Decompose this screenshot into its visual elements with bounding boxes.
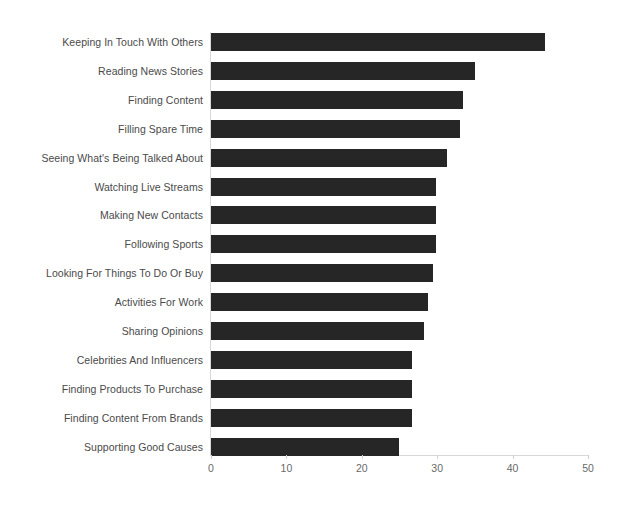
bar: [211, 409, 412, 427]
x-tick-mark: [513, 455, 514, 459]
x-tick-label: 30: [417, 462, 457, 474]
bar-row: Activities For Work: [0, 292, 642, 312]
x-tick-label: 50: [568, 462, 608, 474]
bar: [211, 264, 433, 282]
bar-row: Finding Content From Brands: [0, 408, 642, 428]
bar-row: Celebrities And Influencers: [0, 350, 642, 370]
bar: [211, 149, 447, 167]
bar-row: Sharing Opinions: [0, 321, 642, 341]
bar: [211, 178, 436, 196]
bar: [211, 322, 424, 340]
bar-row: Looking For Things To Do Or Buy: [0, 263, 642, 283]
bar-row: Keeping In Touch With Others: [0, 32, 642, 52]
bar: [211, 235, 436, 253]
bar-row: Following Sports: [0, 234, 642, 254]
bar-row: Reading News Stories: [0, 61, 642, 81]
bar-row: Supporting Good Causes: [0, 437, 642, 457]
bar-row: Seeing What's Being Talked About: [0, 148, 642, 168]
bar: [211, 91, 463, 109]
bar: [211, 293, 428, 311]
x-tick-label: 40: [493, 462, 533, 474]
bar: [211, 438, 399, 456]
x-tick-mark: [588, 455, 589, 459]
x-tick-label: 10: [266, 462, 306, 474]
bar: [211, 120, 460, 138]
bar: [211, 351, 412, 369]
x-tick-label: 20: [342, 462, 382, 474]
bar: [211, 380, 412, 398]
bar: [211, 62, 475, 80]
bar-row: Finding Content: [0, 90, 642, 110]
x-tick-mark: [437, 455, 438, 459]
bar-chart: Keeping In Touch With OthersReading News…: [0, 0, 642, 506]
bar-row: Watching Live Streams: [0, 177, 642, 197]
x-tick-mark: [362, 455, 363, 459]
bar-row: Finding Products To Purchase: [0, 379, 642, 399]
bar: [211, 206, 436, 224]
bar-row: Filling Spare Time: [0, 119, 642, 139]
bar: [211, 33, 545, 51]
x-tick-mark: [286, 455, 287, 459]
bar-row: Making New Contacts: [0, 205, 642, 225]
x-tick-mark: [211, 455, 212, 459]
x-tick-label: 0: [191, 462, 231, 474]
